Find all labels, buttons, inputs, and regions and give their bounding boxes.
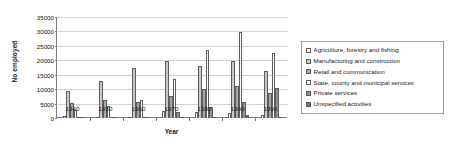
- x-axis-tick-label: 1960: [132, 105, 146, 112]
- bar-groups: [57, 17, 288, 118]
- legend-swatch-icon: [306, 102, 311, 107]
- legend-swatch-icon: [306, 48, 311, 53]
- legend-swatch-icon: [306, 80, 311, 85]
- y-axis-tick-label: 35000: [37, 14, 54, 21]
- legend-item: State, county and municipal services: [306, 77, 440, 88]
- x-axis-tick-label: 1980: [198, 105, 212, 112]
- bar-chart: No employed 0500010000150002000025000300…: [0, 0, 452, 159]
- bar: [275, 88, 279, 118]
- y-axis-tick-label: 25000: [37, 42, 54, 49]
- bar-group: [189, 17, 222, 118]
- legend-item: Manufacturing and construction: [306, 56, 440, 67]
- bar: [279, 117, 283, 118]
- bar: [147, 117, 151, 118]
- y-axis-tick-mark: [55, 118, 57, 119]
- legend-item: Private services: [306, 88, 440, 99]
- legend-label: Private services: [314, 90, 358, 96]
- bar-group: [156, 17, 189, 118]
- y-axis-tick-label: 20000: [37, 57, 54, 64]
- x-axis-title: Year: [56, 128, 287, 135]
- y-axis-tick-label: 30000: [37, 28, 54, 35]
- legend-label: Manufacturing and construction: [314, 58, 400, 64]
- bar-group: [255, 17, 288, 118]
- y-axis-tick-label: 5000: [40, 100, 54, 107]
- legend-swatch-icon: [306, 69, 311, 74]
- legend-swatch-icon: [306, 91, 311, 96]
- plot-area: 05000100001500020000250003000035000: [56, 17, 287, 118]
- legend-label: State, county and municipal services: [314, 80, 414, 86]
- legend-swatch-icon: [306, 59, 311, 64]
- legend: Agriculture, forestry and fishingManufac…: [301, 41, 444, 114]
- bar: [180, 117, 184, 118]
- y-axis-tick-label: 15000: [37, 71, 54, 78]
- bar: [246, 115, 250, 118]
- bar-group: [57, 17, 90, 118]
- legend-item: Unspecified activities: [306, 99, 440, 110]
- bar: [114, 117, 118, 118]
- x-axis-tick-label: 1970: [165, 105, 179, 112]
- bar-group: [123, 17, 156, 118]
- x-axis-tick-label: 1950: [99, 105, 113, 112]
- legend-label: Agriculture, forestry and fishing: [314, 47, 399, 53]
- x-axis-tick-label: 1990: [231, 105, 245, 112]
- x-axis-tick-label: 1996: [264, 105, 278, 112]
- bar: [213, 117, 217, 118]
- x-axis-tick-label: 1940: [66, 105, 80, 112]
- legend-label: Unspecified activities: [314, 101, 372, 107]
- y-axis-title: No employed: [11, 27, 18, 97]
- legend-item: Agriculture, forestry and fishing: [306, 45, 440, 56]
- y-axis-tick-label: 0: [51, 115, 54, 122]
- bar: [81, 117, 85, 118]
- legend-label: Retail and communication: [314, 69, 385, 75]
- y-axis-tick-label: 10000: [37, 86, 54, 93]
- bar-group: [90, 17, 123, 118]
- legend-item: Retail and communication: [306, 67, 440, 78]
- bar-group: [222, 17, 255, 118]
